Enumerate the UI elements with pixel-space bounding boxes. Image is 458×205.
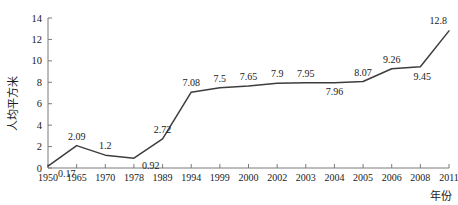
line-chart-plot: 02468101214 1950196519701978198919941999… xyxy=(0,0,458,205)
x-tick-label: 1978 xyxy=(124,172,144,183)
x-tick-label: 2003 xyxy=(296,172,316,183)
data-point-label: 7.9 xyxy=(271,68,284,79)
data-point-label: 7.5 xyxy=(214,73,227,84)
y-tick-label: 6 xyxy=(37,98,42,109)
y-tick-label: 10 xyxy=(32,55,43,66)
x-tick-label: 2005 xyxy=(353,172,373,183)
data-point-label: 7.08 xyxy=(182,77,200,88)
x-tick-label: 2006 xyxy=(382,172,402,183)
data-point-label: 0.92 xyxy=(142,160,160,171)
y-axis-ticks: 02468101214 xyxy=(32,13,53,174)
data-point-label: 9.26 xyxy=(383,54,401,65)
data-point-label: 8.07 xyxy=(354,67,372,78)
x-axis-ticks xyxy=(48,164,449,168)
data-point-label: 7.95 xyxy=(297,68,315,79)
x-axis-tick-labels: 1950196519701978198919941999200020022003… xyxy=(38,172,458,183)
x-tick-label: 1994 xyxy=(181,172,201,183)
data-point-label: 2.72 xyxy=(154,124,172,135)
data-point-labels: 0.172.091.20.922.727.087.57.657.97.957.9… xyxy=(58,15,447,179)
data-point-label: 0.17 xyxy=(58,168,76,179)
x-tick-label: 1970 xyxy=(95,172,115,183)
y-tick-label: 12 xyxy=(32,34,43,45)
data-point-label: 7.96 xyxy=(326,86,344,97)
data-point-label: 1.2 xyxy=(99,140,112,151)
x-tick-label: 2000 xyxy=(239,172,259,183)
y-tick-label: 8 xyxy=(37,77,42,88)
data-point-label: 2.09 xyxy=(68,131,86,142)
data-point-label: 12.8 xyxy=(430,15,448,26)
x-axis-title: 年份 xyxy=(430,187,452,203)
y-tick-label: 4 xyxy=(37,120,43,131)
x-tick-label: 2011 xyxy=(439,172,458,183)
chart-container: 人均平方米 02468101214 1950196519701978198919… xyxy=(0,0,458,205)
data-point-label: 7.65 xyxy=(240,71,258,82)
x-tick-label: 1999 xyxy=(210,172,230,183)
x-tick-label: 2004 xyxy=(324,172,344,183)
x-tick-label: 2008 xyxy=(410,172,430,183)
data-point-label: 9.45 xyxy=(414,71,432,82)
x-tick-label: 2002 xyxy=(267,172,287,183)
y-tick-label: 14 xyxy=(32,13,43,24)
x-tick-label: 1989 xyxy=(153,172,173,183)
x-tick-label: 1950 xyxy=(38,172,58,183)
y-tick-label: 2 xyxy=(37,141,42,152)
